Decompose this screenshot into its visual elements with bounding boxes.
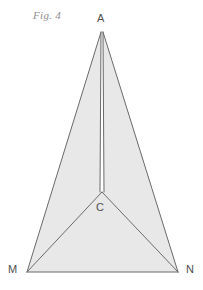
filled-regions <box>27 32 178 272</box>
vertex-label-n: N <box>186 263 194 275</box>
figure-caption: Fig. 4 <box>33 9 61 21</box>
geometry-diagram <box>0 0 203 290</box>
vertex-label-a: A <box>97 12 104 24</box>
figure-canvas: Fig. 4 A C M N <box>0 0 203 290</box>
vertex-label-m: M <box>8 263 17 275</box>
vertex-label-c: C <box>96 201 104 213</box>
